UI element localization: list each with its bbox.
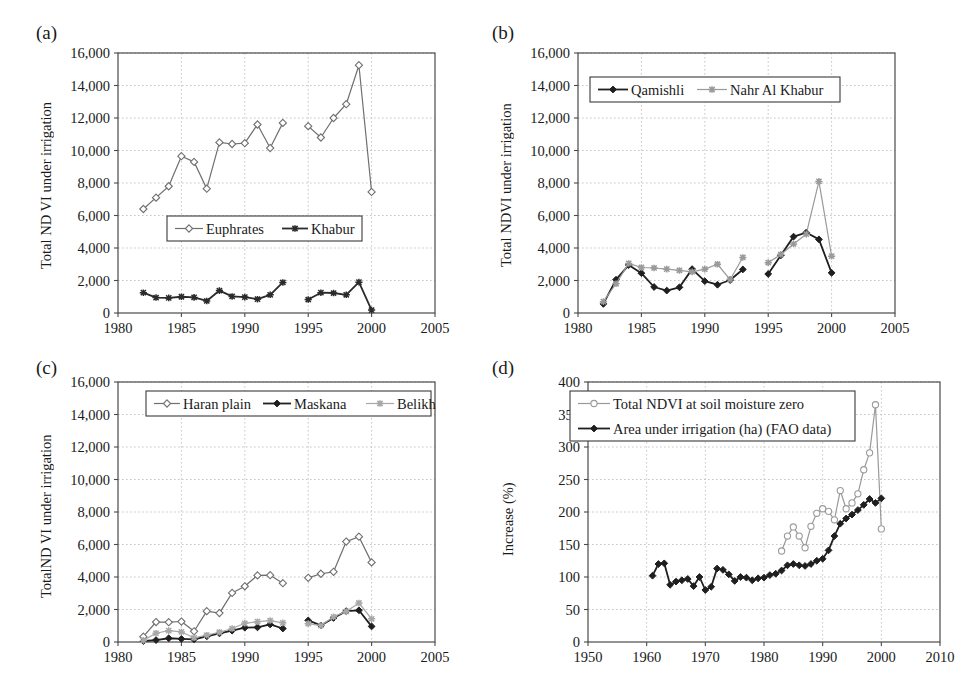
data-point-marker [140, 637, 147, 644]
x-tick-label: 1985 [167, 649, 196, 665]
legend-label: Euphrates [206, 221, 264, 237]
y-tick-label: 8,000 [77, 175, 110, 191]
y-tick-label: 10,000 [70, 143, 110, 159]
data-point-marker [867, 450, 873, 456]
data-point-marker [689, 269, 696, 276]
data-point-marker [878, 526, 884, 532]
data-point-marker [790, 561, 797, 568]
data-point-marker [190, 634, 197, 641]
data-point-marker [279, 620, 286, 627]
x-tick-label: 1970 [691, 649, 720, 665]
y-axis-ticks: 02,0004,0006,0008,00010,00012,00014,0001… [530, 45, 578, 321]
y-tick-label: 4,000 [77, 240, 110, 256]
panel-c-label: (c) [36, 357, 57, 379]
data-point-marker [820, 506, 826, 512]
data-point-marker [368, 188, 375, 195]
y-tick-label: 12,000 [70, 110, 110, 126]
data-point-marker [815, 178, 822, 185]
data-point-marker [714, 281, 721, 288]
data-point-marker [254, 296, 261, 303]
panel-c: (c) TotalND VI under irrigation 02,0004,… [0, 339, 490, 679]
x-tick-label: 2000 [357, 320, 386, 336]
data-point-marker [140, 289, 147, 296]
data-point-marker [279, 119, 286, 126]
data-point-marker [267, 144, 274, 151]
data-point-marker [702, 587, 709, 594]
data-point-marker [368, 559, 375, 566]
data-point-marker [701, 266, 708, 273]
panel-a: (a) Total ND VI under irrigation 02,0004… [0, 0, 490, 340]
data-point-marker [165, 295, 172, 302]
legend-label: Maskana [294, 396, 347, 412]
data-point-marker [343, 292, 350, 299]
data-point-marker [661, 560, 668, 567]
series-qamishli [600, 229, 835, 307]
y-tick-label: 250 [558, 472, 580, 488]
y-tick-label: 8,000 [537, 175, 570, 191]
data-point-marker [317, 570, 324, 577]
legend-label: Qamishli [631, 82, 684, 98]
data-point-marker [727, 276, 734, 283]
y-tick-label: 16,000 [530, 45, 570, 61]
data-point-marker [229, 293, 236, 300]
x-axis-ticks: 1950196019701980199020002010 [574, 642, 955, 665]
data-point-marker [831, 533, 838, 540]
data-point-marker [808, 523, 814, 529]
y-tick-label: 14,000 [70, 407, 110, 423]
x-tick-label: 1985 [627, 320, 656, 336]
panel-d: (d) Increase (%) 05010015020025030035040… [490, 339, 980, 679]
data-point-marker [368, 307, 375, 314]
data-point-marker [739, 254, 746, 261]
data-point-marker [678, 577, 685, 584]
y-tick-label: 0 [103, 305, 110, 321]
y-axis-ticks: 02,0004,0006,0008,00010,00012,00014,0001… [70, 374, 118, 650]
x-tick-label: 1950 [574, 649, 603, 665]
data-point-marker [229, 625, 236, 632]
data-point-marker [714, 261, 721, 268]
y-tick-label: 0 [103, 634, 110, 650]
x-tick-label: 2005 [881, 320, 910, 336]
panel-d-plot: 0501001502002503003504001950196019701980… [490, 339, 980, 679]
data-point-marker [600, 298, 607, 305]
x-tick-label: 1990 [808, 649, 837, 665]
data-point-marker [254, 121, 261, 128]
panel-a-plot: 02,0004,0006,0008,00010,00012,00014,0001… [0, 0, 490, 340]
data-point-marker [663, 266, 670, 273]
data-point-marker [216, 287, 223, 294]
legend: Total NDVI at soil moisture zeroArea und… [570, 391, 855, 441]
y-tick-label: 10,000 [530, 143, 570, 159]
data-point-marker [638, 264, 645, 271]
legend: QamishliNahr Al Khabur [590, 77, 840, 102]
data-point-marker [790, 524, 796, 530]
x-tick-label: 1995 [294, 320, 323, 336]
data-point-marker [216, 629, 223, 636]
data-point-marker [831, 517, 837, 523]
panel-c-ylabel: TotalND VI under irrigation [38, 391, 55, 641]
data-point-marker [203, 632, 210, 639]
data-point-marker [317, 289, 324, 296]
data-point-marker [229, 589, 236, 596]
y-tick-label: 50 [566, 602, 581, 618]
y-tick-label: 10,000 [70, 472, 110, 488]
panel-b: (b) Total NDVI under irrigation 02,0004,… [490, 0, 980, 340]
data-point-marker [828, 253, 835, 260]
data-point-marker [305, 296, 312, 303]
x-tick-label: 2000 [817, 320, 846, 336]
x-tick-label: 1990 [690, 320, 719, 336]
x-tick-label: 1980 [750, 649, 779, 665]
data-point-marker [625, 260, 632, 267]
data-point-marker [843, 506, 849, 512]
data-point-marker [368, 615, 375, 622]
data-point-marker [203, 185, 210, 192]
data-point-marker [203, 608, 210, 615]
data-point-marker [241, 620, 248, 627]
data-point-marker [254, 618, 261, 625]
data-point-marker [178, 153, 185, 160]
y-tick-label: 6,000 [537, 208, 570, 224]
data-point-marker [178, 629, 185, 636]
data-point-marker [649, 572, 656, 579]
panel-b-plot: 02,0004,0006,0008,00010,00012,00014,0001… [490, 0, 980, 340]
x-tick-label: 2005 [421, 649, 450, 665]
data-point-marker [343, 538, 350, 545]
x-axis-ticks: 198019851990199520002005 [104, 313, 450, 336]
